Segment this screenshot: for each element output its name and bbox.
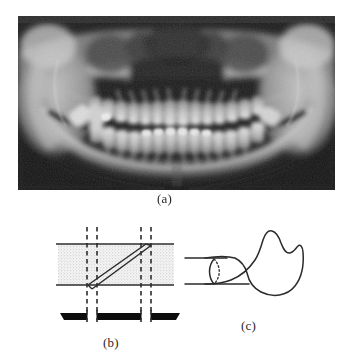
mandible-outline (205, 231, 303, 296)
base-bar (60, 310, 180, 322)
panel-b-caption: (b) (103, 335, 119, 351)
panoramic-radiograph-image (18, 16, 335, 190)
cross-section-dotted-edge (214, 259, 219, 284)
panel-b-schematic (52, 222, 180, 330)
panel-c-mandible-outline (183, 222, 311, 322)
panel-c-caption: (c) (241, 318, 256, 334)
figure-container: (a) (0, 0, 347, 364)
panel-a-caption: (a) (157, 191, 172, 207)
cross-section-front-edge (210, 259, 215, 284)
